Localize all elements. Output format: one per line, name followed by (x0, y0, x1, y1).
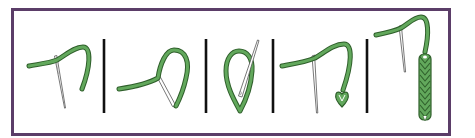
chain-of-stitches (419, 54, 431, 121)
thread (226, 51, 252, 111)
step-3 (226, 40, 259, 111)
chain-stitch (336, 92, 349, 107)
diagram-frame (13, 10, 450, 135)
step-4 (282, 44, 350, 113)
needle-icon (55, 56, 66, 109)
step-1 (29, 47, 89, 108)
needle-icon (312, 55, 318, 113)
step-5 (376, 17, 431, 121)
needle-icon (399, 26, 406, 73)
step-2 (119, 50, 188, 107)
chain-stitch-diagram: Lazy daisy / chain stitch step-by-step (0, 0, 475, 138)
thread (119, 50, 188, 106)
